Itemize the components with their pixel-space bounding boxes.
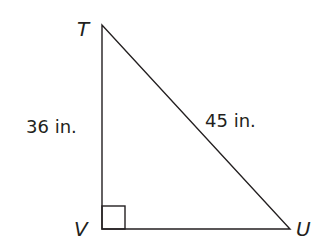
vertex-label-t: T (77, 17, 91, 41)
side-label-tv: 36 in. (26, 116, 77, 137)
triangle-tvu (102, 25, 290, 229)
side-label-tu: 45 in. (205, 110, 256, 131)
triangle-svg: T V U 36 in. 45 in. (0, 0, 324, 246)
vertex-label-v: V (74, 217, 89, 241)
vertex-label-u: U (296, 217, 311, 241)
triangle-diagram: T V U 36 in. 45 in. (0, 0, 324, 246)
right-angle-marker (102, 206, 125, 229)
